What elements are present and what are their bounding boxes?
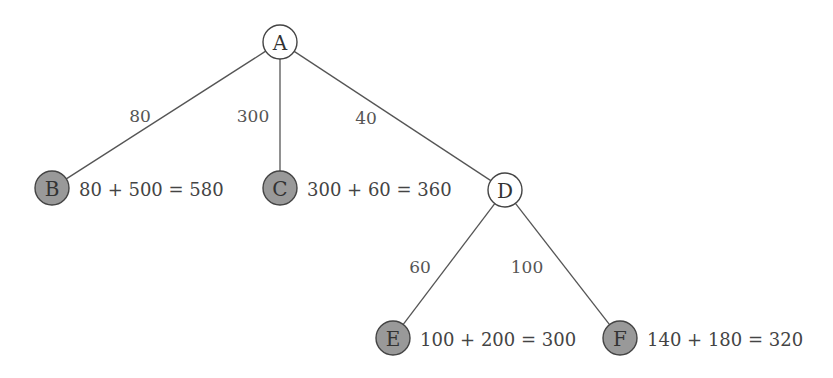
edge-weight-d-e: 60 [409, 257, 431, 277]
edge-weight-a-c: 300 [237, 106, 269, 126]
node-label-d: D [497, 179, 513, 203]
edge-a-b [66, 51, 265, 179]
node-f: F [603, 321, 637, 355]
node-c: C [263, 171, 297, 205]
node-label-b: B [45, 177, 60, 201]
cost-label-e: 100 + 200 = 300 [420, 329, 576, 350]
cost-label-f: 140 + 180 = 320 [647, 329, 803, 350]
node-e: E [376, 321, 410, 355]
edge-weight-a-b: 80 [129, 106, 151, 126]
node-b: B [35, 171, 69, 205]
edge-a-d [294, 51, 491, 180]
search-tree-diagram: 803004060100 ABCDEF 80 + 500 = 580300 + … [0, 0, 833, 378]
cost-label-c: 300 + 60 = 360 [307, 179, 452, 200]
edge-weight-d-f: 100 [511, 257, 543, 277]
node-label-a: A [272, 31, 288, 55]
edge-weight-a-d: 40 [355, 108, 377, 128]
node-a: A [263, 25, 297, 59]
node-label-f: F [613, 327, 627, 351]
node-label-c: C [272, 177, 287, 201]
cost-label-b: 80 + 500 = 580 [79, 179, 224, 200]
node-d: D [488, 173, 522, 207]
node-label-e: E [386, 327, 401, 351]
cost-labels-layer: 80 + 500 = 580300 + 60 = 360100 + 200 = … [79, 179, 803, 350]
